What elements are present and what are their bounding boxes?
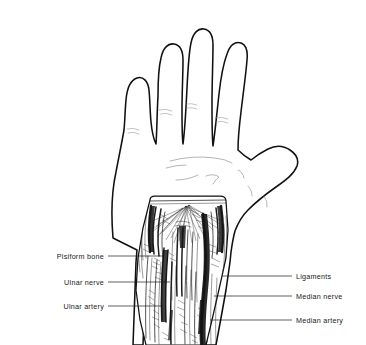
label-ulnar-artery: Ulnar artery [63,302,104,311]
labels-left: Pisiform bone Ulnar nerve Ulnar artery [57,252,104,311]
label-median-artery: Median artery [296,316,343,325]
label-ligaments: Ligaments [296,272,332,281]
label-median-nerve: Median nerve [296,292,343,301]
labels-right: Ligaments Median nerve Median artery [296,272,343,325]
anatomy-figure: Pisiform bone Ulnar nerve Ulnar artery L… [0,0,366,345]
hand-diagram-svg: Pisiform bone Ulnar nerve Ulnar artery L… [0,0,366,345]
label-ulnar-nerve: Ulnar nerve [64,278,104,287]
label-pisiform-bone: Pisiform bone [57,252,104,261]
